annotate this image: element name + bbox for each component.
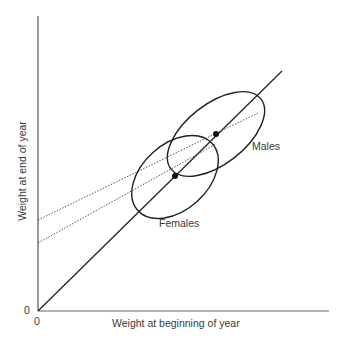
diagram-canvas xyxy=(0,0,344,343)
males-label: Males xyxy=(252,141,280,152)
x-axis-zero-tick: 0 xyxy=(34,316,40,327)
identity-line xyxy=(38,71,282,311)
males-mean-point xyxy=(213,131,219,137)
females-mean-point xyxy=(172,173,178,179)
males-regression-line xyxy=(38,113,258,220)
y-axis-label: Weight at end of year xyxy=(17,121,28,221)
regression-diagram: Weight at end of year Weight at beginnin… xyxy=(0,0,344,343)
y-axis-zero-tick: 0 xyxy=(24,305,30,316)
females-label: Females xyxy=(159,218,199,229)
x-axis-label: Weight at beginning of year xyxy=(112,318,240,329)
